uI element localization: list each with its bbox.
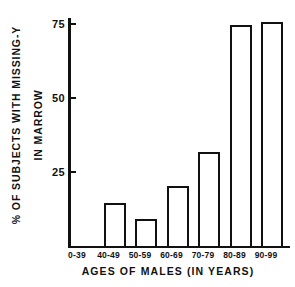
y-axis-label: % OF SUBJECTS WITH MISSING-Y IN MARROW bbox=[0, 0, 52, 250]
x-axis-tick-label: 40-49 bbox=[92, 250, 126, 260]
bar[interactable] bbox=[104, 203, 126, 246]
x-axis-tick-label: 70-79 bbox=[186, 250, 220, 260]
x-axis-tick-label: 50-59 bbox=[123, 250, 157, 260]
x-axis-label: AGES OF MALES (IN YEARS) bbox=[48, 265, 288, 277]
y-axis-tick-label: 25 bbox=[52, 166, 65, 178]
bar[interactable] bbox=[261, 22, 283, 245]
x-axis-tick-label: 0-39 bbox=[60, 250, 94, 260]
bar[interactable] bbox=[167, 186, 189, 245]
x-axis-tick-label: 80-89 bbox=[218, 250, 252, 260]
plot-area: 255075 bbox=[68, 18, 290, 248]
x-axis-tick-label: 60-69 bbox=[155, 250, 189, 260]
y-axis-label-line-2: IN MARROW bbox=[32, 89, 44, 160]
y-axis-label-line-1: % OF SUBJECTS WITH MISSING-Y bbox=[10, 26, 22, 224]
x-axis-tick-labels: 0-3940-4950-5960-6970-7980-8990-99 bbox=[70, 250, 290, 264]
y-axis-tick-label: 75 bbox=[52, 18, 65, 30]
x-axis-tick-label: 90-99 bbox=[249, 250, 283, 260]
y-axis-tick-label: 50 bbox=[52, 92, 65, 104]
bar[interactable] bbox=[230, 25, 252, 245]
bar[interactable] bbox=[135, 219, 157, 246]
bar[interactable] bbox=[198, 152, 220, 245]
bar-chart-figure: % OF SUBJECTS WITH MISSING-Y IN MARROW 2… bbox=[0, 0, 295, 287]
bar-series bbox=[70, 18, 290, 246]
x-axis-spine bbox=[68, 246, 290, 249]
